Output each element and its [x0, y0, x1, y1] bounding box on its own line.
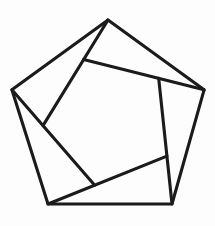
figure-canvas — [0, 0, 215, 226]
pentagon-whirl-figure — [0, 0, 215, 226]
